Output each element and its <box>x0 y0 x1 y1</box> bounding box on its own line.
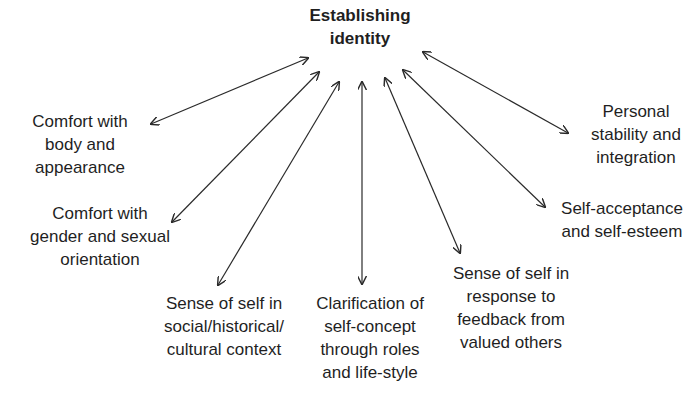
identity-diagram: Establishing identity Comfort with body … <box>0 0 700 406</box>
node-self-acceptance: Self-acceptance and self-esteem <box>548 197 696 243</box>
node-body-appearance: Comfort with body and appearance <box>10 110 150 179</box>
node-clarification-self-concept: Clarification of self-concept through ro… <box>306 292 434 384</box>
center-node-establishing-identity: Establishing identity <box>300 4 420 50</box>
arrow-body <box>151 58 308 124</box>
arrow-social <box>218 82 339 285</box>
node-personal-stability: Personal stability and integration <box>578 100 694 169</box>
arrow-gender <box>172 72 319 222</box>
node-gender-orientation: Comfort with gender and sexual orientati… <box>18 202 182 271</box>
node-feedback-valued-others: Sense of self in response to feedback fr… <box>446 262 576 354</box>
node-social-context: Sense of self in social/historical/ cult… <box>144 292 304 361</box>
arrow-stability <box>423 52 568 133</box>
arrow-feedback <box>385 78 460 253</box>
arrow-acceptance <box>403 70 545 207</box>
